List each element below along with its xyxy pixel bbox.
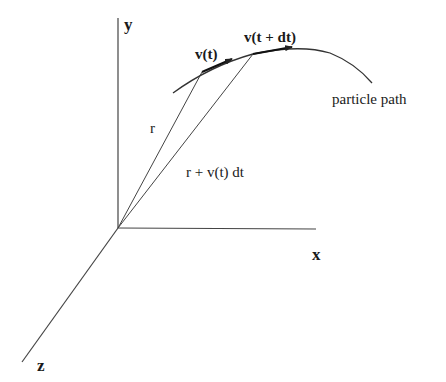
z-axis (22, 228, 118, 362)
velocity-t-dt-label: v(t + dt) (244, 29, 296, 46)
position-vector-r-label: r (150, 120, 155, 136)
position-vector-r (118, 72, 202, 228)
position-vector-r-plus-vdt (118, 54, 253, 228)
particle-path-label: particle path (332, 91, 407, 107)
x-axis (118, 228, 316, 229)
y-axis-label: y (124, 15, 133, 34)
x-axis-label: x (312, 245, 321, 264)
diagram-canvas: y x z v(t) v(t + dt) r r + v(t) dt parti… (0, 0, 446, 382)
position-vector-r-plus-vdt-label: r + v(t) dt (186, 164, 245, 181)
velocity-arrow-t-dt (253, 47, 292, 54)
velocity-t-label: v(t) (195, 46, 218, 63)
z-axis-label: z (37, 356, 45, 375)
